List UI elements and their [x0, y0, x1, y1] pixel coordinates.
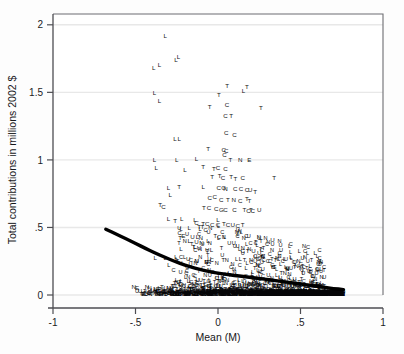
data-point: T [171, 283, 175, 289]
data-point: L [177, 135, 181, 142]
data-point: L [245, 265, 248, 271]
data-point: N [249, 257, 253, 263]
data-point: L [158, 61, 162, 68]
data-point: T [247, 197, 251, 204]
data-point: T [221, 275, 225, 281]
data-point: L [154, 287, 157, 293]
data-point: C [233, 185, 238, 192]
data-point: C [197, 231, 201, 237]
data-point: C [249, 240, 253, 246]
data-point: C [223, 206, 228, 213]
data-point: C [185, 268, 189, 274]
data-point: T [225, 82, 229, 89]
data-point: C [225, 101, 230, 108]
data-point: N [215, 260, 219, 266]
data-point: N [277, 283, 281, 289]
figure-canvas: LLLLLLLLLLLLLLTTTCTTCTCCTCCCLTNETTCCTTCT… [0, 0, 404, 354]
data-point: T [217, 91, 221, 98]
data-point: C [241, 174, 246, 181]
data-point: T [272, 174, 276, 181]
data-point: U [233, 243, 237, 249]
data-point: L [153, 89, 157, 96]
data-point: L [239, 256, 242, 262]
data-point: L [154, 164, 158, 171]
data-point: L [195, 155, 199, 162]
data-point: T [177, 240, 181, 246]
data-point: L [152, 64, 156, 71]
data-point: C [262, 283, 266, 289]
data-point: T [173, 217, 177, 224]
data-point: C [224, 129, 229, 136]
data-point: U [236, 227, 240, 233]
data-point: L [240, 229, 243, 235]
data-point: C [306, 244, 310, 250]
data-point: T [243, 257, 247, 263]
data-point: N [261, 253, 265, 259]
data-point: U [177, 291, 181, 297]
data-point: C [216, 164, 221, 171]
data-point: T [259, 104, 263, 111]
data-point: U [177, 225, 181, 231]
data-point: T [208, 103, 212, 110]
data-point: N [270, 247, 274, 253]
data-point: C [232, 131, 237, 138]
data-point: L [148, 290, 151, 296]
data-point: N [183, 290, 187, 296]
data-point: T [310, 257, 314, 263]
data-point: U [193, 291, 197, 297]
data-point: N [247, 246, 251, 252]
y-axis-title: Total contributions in millions 2002 $ [6, 76, 18, 245]
data-point: T [245, 83, 249, 90]
data-point: C [251, 281, 255, 287]
data-point: L [167, 262, 170, 268]
data-point: U [227, 240, 231, 246]
data-point: U [248, 186, 252, 193]
x-axis-title: Mean (M) [196, 331, 241, 343]
data-point: N [204, 259, 208, 265]
data-point: C [214, 283, 218, 289]
data-point: T [201, 163, 205, 170]
data-point: T [322, 267, 326, 273]
data-point: C [235, 233, 239, 239]
data-point: T [281, 291, 285, 297]
data-point: L [198, 290, 201, 296]
data-point: L [289, 249, 292, 255]
data-point: U [247, 233, 251, 239]
data-point: T [271, 291, 275, 297]
data-point: C [219, 196, 224, 203]
data-point: C [189, 279, 193, 285]
data-point: C [289, 241, 293, 247]
data-point: C [239, 185, 244, 192]
data-point: C [223, 112, 228, 119]
data-point: L [210, 246, 214, 253]
data-point: U [231, 221, 235, 228]
data-point: U [241, 250, 245, 256]
data-point: N [208, 240, 212, 246]
data-point: L [183, 254, 186, 260]
data-point: N [294, 290, 298, 296]
x-axis-ticks: -1-.50.51 [49, 308, 387, 328]
y-tick-label: 1.5 [29, 87, 43, 98]
data-point: L [252, 290, 255, 296]
data-point: U [203, 291, 207, 297]
scatter-plot: LLLLLLLLLLLLLLTTTCTTCTCCTCCCLTNETTCCTTCT… [0, 0, 404, 354]
data-point: L [275, 272, 278, 278]
data-point: L [153, 156, 157, 163]
data-point: C [231, 283, 235, 289]
data-point: L [235, 256, 238, 262]
data-point: L [183, 166, 187, 173]
data-point: N [231, 196, 235, 203]
data-point: C [212, 193, 217, 200]
data-point: T [177, 183, 181, 190]
data-point: L [163, 32, 167, 39]
data-point: N [238, 156, 242, 163]
data-point: L [320, 258, 323, 264]
data-point: L [271, 283, 274, 289]
data-point: N [223, 185, 227, 192]
data-point: U [178, 282, 182, 288]
data-point: U [178, 269, 182, 275]
data-point: U [247, 282, 251, 288]
data-point: N [225, 257, 229, 263]
data-point: C [222, 151, 227, 158]
data-point: L [241, 278, 244, 284]
